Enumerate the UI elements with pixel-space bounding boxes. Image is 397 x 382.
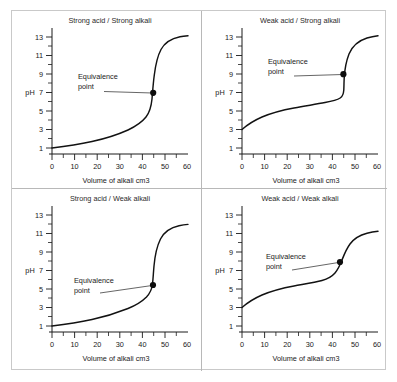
equivalence-label-line1: Equivalence	[74, 276, 114, 285]
y-tick-label: 5	[229, 107, 233, 116]
titration-curve	[242, 231, 378, 307]
x-axis-tick-labels: 0 10 20 30 40 50	[50, 162, 169, 171]
y-tick-label: 5	[39, 285, 43, 294]
chart-title: Strong acid / Strong alkali	[68, 16, 152, 25]
y-tick-label: 11	[35, 229, 43, 238]
y-tick-label: 7	[39, 266, 43, 275]
y-tick-label: 3	[39, 303, 43, 312]
y-tick-label: 11	[225, 229, 233, 238]
chart-title: Weak acid / Weak alkali	[261, 194, 339, 203]
chart-svg: Strong acid / Weak alkali	[12, 189, 199, 366]
y-axis-tick-labels: 1 3 5 7 9 11 13	[225, 211, 233, 331]
x-tick-label: 40	[328, 162, 336, 171]
x-tick-label: 10	[71, 340, 79, 349]
y-tick-label: 7	[39, 88, 43, 97]
y-tick-label: 3	[229, 303, 233, 312]
x-axis-tick-labels: 0 10 20 30 40 50 60	[50, 340, 191, 349]
y-tick-label: 5	[229, 285, 233, 294]
y-tick-label: 13	[35, 211, 43, 220]
x-tick-label: 10	[71, 162, 79, 171]
y-axis-ticks	[46, 215, 52, 326]
x-tick-label: 40	[138, 340, 146, 349]
y-axis-tick-labels: 1 3 5 7 9 11 13	[35, 211, 43, 331]
y-tick-label: 13	[35, 33, 43, 42]
equivalence-label-line2: point	[78, 82, 94, 91]
x-tick-label: 30	[116, 162, 124, 171]
titration-curve	[242, 36, 378, 130]
y-tick-label: 3	[39, 125, 43, 134]
x-tick-label: 0	[240, 162, 244, 171]
y-axis-tick-labels: 1 3 5 7 9 11 13	[35, 33, 43, 153]
x-tick-label: 30	[306, 340, 314, 349]
chart-panel-strong-acid-strong-alkali: Strong acid / Strong alkali	[12, 11, 199, 188]
x-tick-label: 50	[351, 340, 359, 349]
y-tick-label: 9	[229, 248, 233, 257]
y-axis-ticks	[46, 37, 52, 148]
y-tick-label: 9	[229, 70, 233, 79]
equivalence-label-line1: Equivalence	[266, 252, 306, 261]
y-tick-label: 11	[225, 51, 233, 60]
y-tick-label: 1	[229, 322, 233, 331]
y-tick-label: 7	[229, 88, 233, 97]
x-axis-ticks	[52, 154, 176, 160]
x-tick-label: 20	[283, 162, 291, 171]
y-axis-label: pH	[25, 88, 34, 97]
x-tick-label: 0	[50, 340, 54, 349]
y-tick-label: 1	[229, 144, 233, 153]
chart-title: Strong acid / Weak alkali	[70, 194, 151, 203]
x-tick-label: 60	[183, 340, 191, 349]
equivalence-point-dot	[340, 71, 346, 77]
y-axis-tick-labels: 1 3 5 7 9 11 13	[225, 33, 233, 153]
y-axis-ticks	[236, 215, 242, 326]
x-axis-ticks	[242, 154, 366, 160]
x-tick-label: 30	[116, 340, 124, 349]
x-tick-label: 50	[161, 162, 169, 171]
axes	[49, 206, 188, 332]
y-tick-label: 3	[229, 125, 233, 134]
y-tick-label: 9	[39, 248, 43, 257]
x-axis-tick-labels: 0 10 20 30 40 50 60	[240, 162, 381, 171]
x-tick-label: 10	[261, 340, 269, 349]
x-tick-label: 20	[93, 340, 101, 349]
x-tick-label: 20	[283, 340, 291, 349]
y-tick-label: 9	[39, 70, 43, 79]
chart-panel-weak-acid-weak-alkali: Weak acid / Weak alkali	[202, 189, 389, 366]
equivalence-annotation: Equivalence point	[78, 72, 156, 96]
titration-curve	[52, 224, 188, 326]
chart-svg: Strong acid / Strong alkali	[12, 11, 199, 188]
x-tick-label: 60	[373, 162, 381, 171]
equivalence-point-dot	[337, 259, 343, 265]
chart-panel-strong-acid-weak-alkali: Strong acid / Weak alkali	[12, 189, 199, 366]
chart-panel-weak-acid-strong-alkali: Weak acid / Strong alkali	[202, 11, 389, 188]
y-axis-label: pH	[215, 88, 224, 97]
y-tick-label: 13	[225, 211, 233, 220]
x-axis-ticks	[52, 332, 176, 338]
x-axis-label: Volume of alkali cm3	[273, 354, 340, 363]
x-tick-label: 30	[306, 162, 314, 171]
equivalence-annotation: Equivalence point	[74, 276, 156, 295]
y-axis-ticks	[236, 37, 242, 148]
x-axis-label: Volume of alkali cm3	[83, 354, 150, 363]
x-tick-label: 0	[240, 340, 244, 349]
axes	[239, 206, 378, 332]
x-axis-tick-labels: 0 10 20 30 40 50 60	[240, 340, 381, 349]
x-axis-ticks	[242, 332, 366, 338]
x-tick-label: 60	[373, 340, 381, 349]
equivalence-annotation: Equivalence point	[268, 57, 347, 77]
y-axis-label: pH	[25, 266, 34, 275]
chart-svg: Weak acid / Weak alkali	[202, 189, 389, 366]
equivalence-label-line1: Equivalence	[268, 57, 308, 66]
equivalence-annotation: Equivalence point	[266, 252, 343, 271]
y-tick-label: 5	[39, 107, 43, 116]
x-tick-label: 10	[261, 162, 269, 171]
y-tick-label: 1	[39, 144, 43, 153]
y-tick-label: 1	[39, 322, 43, 331]
axes	[49, 28, 188, 154]
equivalence-label-line2: point	[268, 67, 284, 76]
x-tick-label: 0	[50, 162, 54, 171]
y-tick-label: 13	[225, 33, 233, 42]
figure-frame: Strong acid / Strong alkali	[11, 10, 386, 370]
equivalence-label-line1: Equivalence	[78, 72, 118, 81]
y-tick-label: 11	[35, 51, 43, 60]
equivalence-point-dot	[150, 282, 156, 288]
